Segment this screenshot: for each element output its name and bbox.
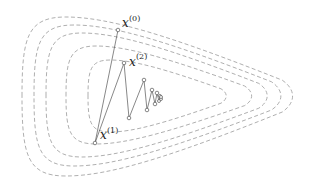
svg-text:x: x — [100, 128, 107, 142]
label-x1: x (1) — [100, 126, 118, 142]
svg-text:x: x — [122, 16, 129, 30]
contour-plot: x (0) x (2) x (1) — [0, 0, 313, 186]
svg-text:(0): (0) — [129, 14, 140, 23]
iterate-point — [153, 102, 157, 106]
iterate-point — [155, 91, 159, 95]
svg-text:(1): (1) — [107, 126, 118, 135]
iterate-point — [116, 28, 120, 32]
iterate-point — [142, 78, 146, 82]
diagram-canvas: x (0) x (2) x (1) — [0, 0, 313, 186]
label-x2: x (2) — [129, 52, 147, 69]
iterate-point — [145, 108, 149, 112]
iterate-path — [95, 30, 161, 143]
level-set-contours — [22, 17, 293, 176]
iterate-point — [127, 116, 131, 120]
svg-text:(2): (2) — [136, 52, 147, 61]
contour-line — [88, 60, 226, 132]
iterate-point — [122, 61, 126, 65]
svg-text:x: x — [129, 55, 136, 69]
iterate-point — [150, 88, 154, 92]
iterate-point — [160, 96, 163, 99]
iterate-point — [93, 141, 97, 145]
